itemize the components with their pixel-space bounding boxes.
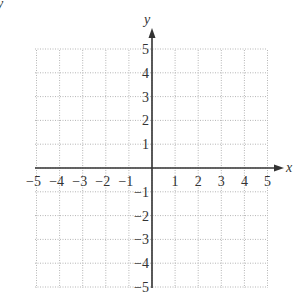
x-tick-label: −3 — [72, 174, 87, 189]
x-tick-label: −1 — [118, 174, 133, 189]
y-tick-label: −3 — [134, 232, 149, 247]
x-axis-arrow-icon — [274, 165, 284, 172]
y-tick-label: 5 — [142, 42, 149, 57]
y-axis-arrow-icon — [149, 28, 156, 38]
x-axis-label: x — [285, 160, 293, 175]
axes — [35, 28, 284, 288]
x-tick-label: −4 — [49, 174, 64, 189]
x-tick-label: −2 — [95, 174, 110, 189]
y-tick-label: 1 — [142, 137, 149, 152]
x-tick-label: 4 — [241, 174, 248, 189]
y-tick-label: −4 — [134, 256, 149, 271]
y-tick-label: −1 — [134, 185, 149, 200]
x-tick-label: 1 — [172, 174, 179, 189]
x-tick-label: 2 — [195, 174, 202, 189]
x-tick-label: 3 — [218, 174, 225, 189]
y-tick-label: 4 — [142, 66, 149, 81]
y-tick-label: −5 — [134, 280, 149, 295]
coordinate-plane: y −5−4−3−2−112345 54321−1−2−3−4−5 x y — [0, 0, 300, 306]
corner-label: y — [0, 0, 4, 11]
y-tick-label: 2 — [142, 113, 149, 128]
x-tick-label: 5 — [264, 174, 271, 189]
y-tick-label: −2 — [134, 209, 149, 224]
y-tick-label: 3 — [142, 90, 149, 105]
x-tick-label: −5 — [26, 174, 41, 189]
y-axis-label: y — [142, 12, 151, 27]
